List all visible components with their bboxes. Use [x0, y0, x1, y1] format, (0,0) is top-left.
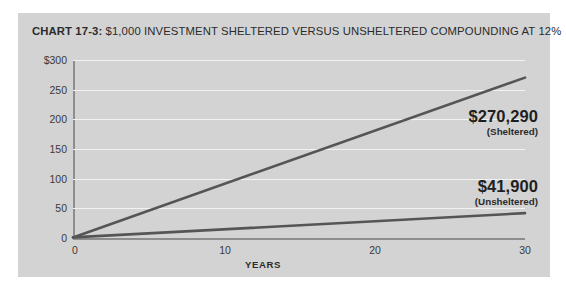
x-tick-label-30: 30 [519, 244, 531, 256]
y-tick-label-50: 50 [25, 202, 67, 214]
x-tick-label-0: 0 [72, 244, 78, 256]
annotation-sheltered: $270,290 (Sheltered) [469, 108, 538, 139]
y-tick-label-0: 0 [25, 232, 67, 244]
series-lines [73, 60, 525, 239]
plot-area: $300 250 200 150 100 50 0 0 10 20 30 YEA… [73, 60, 525, 238]
y-tick-label-300: $300 [25, 54, 67, 66]
y-tick-label-200: 200 [25, 113, 67, 125]
chart-title-text: $1,000 INVESTMENT SHELTERED VERSUS UNSHE… [102, 25, 561, 37]
annotation-unsheltered: $41,900 (Unsheltered) [475, 178, 538, 209]
annotation-unsheltered-label: (Unsheltered) [475, 195, 538, 208]
chart-number-label: CHART 17-3: [32, 25, 102, 37]
line-unsheltered [73, 213, 525, 237]
x-tick-label-10: 10 [219, 244, 231, 256]
y-tick-label-100: 100 [25, 173, 67, 185]
annotation-unsheltered-value: $41,900 [475, 178, 538, 195]
chart-card: CHART 17-3: $1,000 INVESTMENT SHELTERED … [18, 13, 550, 277]
y-tick-label-150: 150 [25, 143, 67, 155]
chart-title: CHART 17-3: $1,000 INVESTMENT SHELTERED … [32, 25, 561, 37]
line-sheltered [73, 78, 525, 238]
annotation-sheltered-label: (Sheltered) [469, 125, 538, 138]
x-axis-title: YEARS [245, 259, 281, 270]
y-tick-label-250: 250 [25, 84, 67, 96]
annotation-sheltered-value: $270,290 [469, 108, 538, 125]
x-tick-label-20: 20 [369, 244, 381, 256]
